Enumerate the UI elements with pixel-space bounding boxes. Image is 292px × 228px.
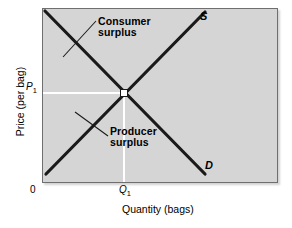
- y-axis-tick-p1: P1: [26, 82, 37, 95]
- y-axis-title: Price (per bag): [15, 54, 26, 150]
- consumer-surplus-line-2: surplus: [98, 27, 151, 38]
- x-axis-tick-q1: Q1: [119, 185, 131, 198]
- supply-curve-label: S: [200, 11, 208, 23]
- x-axis-title: Quantity (bags): [122, 204, 194, 215]
- equilibrium-point-marker: [121, 90, 128, 97]
- y-axis-tick-p1-subscript: 1: [33, 86, 37, 95]
- y-axis-tick-p1-base: P: [26, 81, 33, 92]
- consumer-surplus-leader-line: [63, 21, 96, 57]
- supply-demand-surplus-figure: S D Consumer surplus Producer surplus P1…: [0, 0, 292, 228]
- origin-label: 0: [30, 185, 36, 196]
- demand-curve-label: D: [205, 160, 213, 172]
- producer-surplus-annotation: Producer surplus: [110, 126, 157, 148]
- producer-surplus-line-2: surplus: [110, 137, 157, 148]
- x-axis-tick-q1-base: Q: [119, 184, 127, 195]
- x-axis-tick-q1-subscript: 1: [127, 189, 131, 198]
- plot-canvas: [42, 8, 278, 183]
- consumer-surplus-annotation: Consumer surplus: [98, 16, 151, 38]
